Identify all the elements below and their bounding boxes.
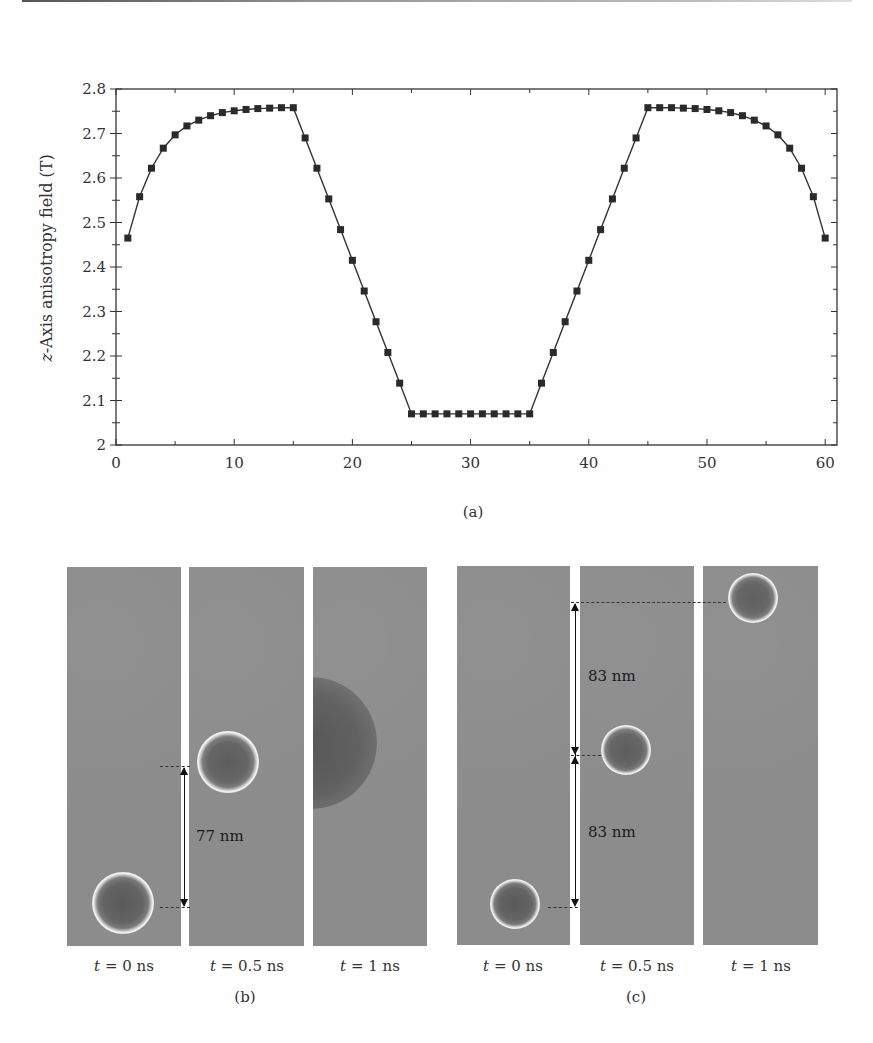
- data-point-marker: [715, 107, 722, 114]
- svg-text:10: 10: [225, 454, 244, 472]
- skyrmion: [490, 879, 540, 929]
- distance-label-upper: 83 nm: [588, 667, 636, 685]
- svg-text:2: 2: [96, 436, 106, 454]
- svg-text:2.4: 2.4: [82, 258, 106, 276]
- data-point-marker: [644, 104, 651, 111]
- data-point-marker: [739, 112, 746, 119]
- arrow-head-up-icon: [571, 756, 579, 764]
- data-point-marker: [349, 257, 356, 264]
- data-point-marker: [680, 105, 687, 112]
- data-point-marker: [384, 349, 391, 356]
- data-point-marker: [160, 145, 167, 152]
- data-point-marker: [278, 104, 285, 111]
- data-point-marker: [550, 349, 557, 356]
- data-point-marker: [266, 105, 273, 112]
- svg-text:2.1: 2.1: [82, 392, 106, 410]
- data-point-marker: [183, 122, 190, 129]
- skyrmion-large: [313, 677, 377, 809]
- svg-text:20: 20: [343, 454, 362, 472]
- data-point-marker: [148, 165, 155, 172]
- panel-b-caption: (b): [215, 988, 275, 1006]
- data-point-marker: [124, 235, 131, 242]
- data-point-marker: [786, 145, 793, 152]
- data-point-marker: [562, 318, 569, 325]
- data-point-marker: [207, 112, 214, 119]
- data-point-marker: [763, 122, 770, 129]
- data-point-marker: [479, 410, 486, 417]
- skyrmion: [197, 731, 259, 793]
- panel-b-time-2: t = 1 ns: [310, 957, 430, 975]
- svg-text:0: 0: [111, 454, 121, 472]
- svg-text:2.5: 2.5: [82, 214, 106, 232]
- panel-c-time-1: t = 0.5 ns: [577, 957, 697, 975]
- svg-text:40: 40: [579, 454, 598, 472]
- anisotropy-chart: 010203040506022.12.22.32.42.52.62.72.8 X…: [0, 0, 873, 480]
- data-point-marker: [290, 104, 297, 111]
- data-point-marker: [798, 165, 805, 172]
- data-point-marker: [822, 235, 829, 242]
- panel-c-caption: (c): [606, 988, 666, 1006]
- panel-b-time-0: t = 0 ns: [64, 957, 184, 975]
- data-point-marker: [136, 193, 143, 200]
- data-point-marker: [633, 134, 640, 141]
- data-point-marker: [396, 380, 403, 387]
- data-point-marker: [408, 410, 415, 417]
- guide-line-bottom: [160, 907, 190, 908]
- data-point-marker: [538, 380, 545, 387]
- panel-c-frame-2: [703, 566, 818, 945]
- skyrmion: [728, 573, 778, 623]
- panel-c-time-0: t = 0 ns: [453, 957, 573, 975]
- data-point-marker: [503, 410, 510, 417]
- panel-b-time-1: t = 0.5 ns: [187, 957, 307, 975]
- svg-text:2.2: 2.2: [82, 347, 106, 365]
- data-point-marker: [443, 410, 450, 417]
- arrow-head-down-icon: [571, 899, 579, 907]
- svg-text:2.3: 2.3: [82, 303, 106, 321]
- data-point-marker: [585, 257, 592, 264]
- data-point-marker: [195, 117, 202, 124]
- data-point-marker: [514, 410, 521, 417]
- data-point-marker: [573, 288, 580, 295]
- data-point-marker: [219, 109, 226, 116]
- data-point-marker: [656, 104, 663, 111]
- svg-text:2.6: 2.6: [82, 169, 106, 187]
- data-point-marker: [621, 165, 628, 172]
- guide-line-top: [571, 602, 726, 603]
- panel-c-time-2: t = 1 ns: [701, 957, 821, 975]
- panel-b-frame-0: [67, 567, 181, 946]
- data-point-marker: [668, 104, 675, 111]
- skyrmion: [601, 725, 651, 775]
- y-axis-title: z-Axis anisotropy field (T): [37, 154, 56, 362]
- guide-line-bottom: [548, 907, 578, 908]
- arrow-head-down-icon: [180, 899, 188, 907]
- data-point-marker: [337, 226, 344, 233]
- data-point-marker: [609, 195, 616, 202]
- svg-text:2.8: 2.8: [82, 80, 106, 98]
- distance-arrow: [184, 768, 185, 906]
- data-point-marker: [491, 410, 498, 417]
- data-point-marker: [774, 131, 781, 138]
- panel-a-caption: (a): [443, 503, 503, 521]
- data-point-marker: [432, 410, 439, 417]
- data-point-marker: [692, 105, 699, 112]
- svg-text:2.7: 2.7: [82, 125, 106, 143]
- data-point-marker: [313, 165, 320, 172]
- svg-text:30: 30: [461, 454, 480, 472]
- data-point-marker: [254, 105, 261, 112]
- data-point-marker: [243, 106, 250, 113]
- data-point-marker: [373, 318, 380, 325]
- data-point-marker: [751, 117, 758, 124]
- data-point-marker: [526, 410, 533, 417]
- panel-b-frame-1: [189, 567, 304, 946]
- data-point-marker: [231, 107, 238, 114]
- data-point-marker: [361, 288, 368, 295]
- data-point-marker: [467, 410, 474, 417]
- data-point-marker: [302, 134, 309, 141]
- svg-text:60: 60: [816, 454, 835, 472]
- arrow-head-up-icon: [180, 767, 188, 775]
- data-point-marker: [455, 410, 462, 417]
- panel-b-frame-2: [313, 567, 427, 946]
- distance-label: 77 nm: [196, 827, 244, 845]
- data-point-marker: [727, 109, 734, 116]
- data-point-marker: [420, 410, 427, 417]
